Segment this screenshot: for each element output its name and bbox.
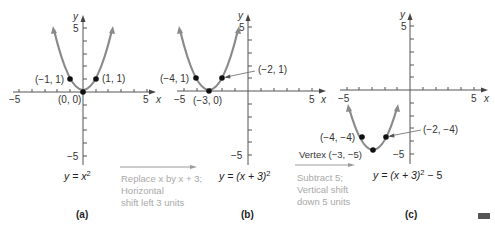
parabola-transformations-figure: y 5 −5 −5 5 x (−1, 1) (1, 1) (0, 0) y = … <box>0 0 495 229</box>
y-axis-label: y <box>399 9 406 20</box>
x-max-label: 5 <box>143 94 149 105</box>
curve-arrow-icon <box>346 104 352 112</box>
x-min-label: −5 <box>338 93 350 104</box>
point-label: (−1, 1) <box>35 74 64 85</box>
transform-note-vertical: Subtract 5; Vertical shift down 5 units <box>295 163 355 207</box>
leader-line <box>226 71 255 77</box>
equation: y = x2 <box>63 169 91 182</box>
transform-note-line: Horizontal <box>121 185 164 196</box>
point-neg2-1 <box>219 75 225 81</box>
x-max-label: 5 <box>471 93 477 104</box>
point-vertex <box>206 88 212 94</box>
arrow-right-icon <box>348 163 355 167</box>
panel-caption: (c) <box>405 209 417 220</box>
panel-caption: (b) <box>241 209 254 220</box>
transform-note-line: shift left 3 units <box>121 197 185 208</box>
x-axis-label: x <box>155 94 162 105</box>
y-axis-arrow-icon <box>81 15 86 22</box>
x-max-label: 5 <box>309 94 315 105</box>
point-label: (−2, 1) <box>258 64 287 75</box>
panel-caption: (a) <box>76 209 88 220</box>
transform-note-line: down 5 units <box>297 196 351 207</box>
x-axis-arrow-icon <box>481 88 488 93</box>
equation: y = (x + 3)2 − 5 <box>372 168 442 181</box>
point-neg2-neg4 <box>383 134 389 140</box>
x-axis-label: x <box>320 94 327 105</box>
y-max-label: 5 <box>401 21 407 32</box>
point-label: (−4, −4) <box>320 132 355 143</box>
transform-note-horizontal: Replace x by x + 3; Horizontal shift lef… <box>120 165 202 208</box>
point-label: (−3, 0) <box>193 95 222 106</box>
leader-arrow-icon <box>224 75 231 79</box>
x-min-label: −5 <box>174 94 186 105</box>
point-neg4-1 <box>193 75 199 81</box>
y-axis-arrow-icon <box>246 14 251 21</box>
y-min-label: −5 <box>231 150 243 161</box>
point-1-1 <box>93 76 99 82</box>
y-max-label: 5 <box>73 23 79 34</box>
point-vertex <box>370 147 376 153</box>
point-neg4-neg4 <box>359 134 365 140</box>
x-axis-arrow-icon <box>319 89 326 94</box>
curve-arrow-icon <box>394 104 400 112</box>
point-label: (0, 0) <box>58 94 81 105</box>
parabola-curve <box>349 108 397 150</box>
curve-arrow-icon <box>177 26 183 34</box>
transform-note-line: Replace x by x + 3; <box>121 173 202 184</box>
point-neg1-1 <box>67 76 73 82</box>
curve-arrow-icon <box>109 26 115 34</box>
y-min-label: −5 <box>67 151 79 162</box>
vertex-label: Vertex (−3, −5) <box>299 149 362 160</box>
point-label: (−4, 1) <box>160 73 189 84</box>
curve-arrow-icon <box>51 26 57 34</box>
leader-arrow-icon <box>388 134 395 138</box>
transform-note-line: Vertical shift <box>297 184 349 195</box>
transform-note-line: Subtract 5; <box>297 172 343 183</box>
x-axis-arrow-icon <box>149 90 156 95</box>
y-axis-label: y <box>72 11 79 22</box>
y-min-label: −5 <box>393 149 405 160</box>
point-label: (−2, −4) <box>423 124 458 135</box>
arrow-right-icon <box>190 165 197 169</box>
x-axis-label: x <box>483 93 490 104</box>
leader-line <box>390 130 421 136</box>
end-marker-square <box>478 213 490 219</box>
x-min-label: −5 <box>9 94 21 105</box>
equation: y = (x + 3)2 <box>218 169 270 182</box>
y-axis-arrow-icon <box>408 13 413 20</box>
point-label: (1, 1) <box>102 73 125 84</box>
y-axis-label: y <box>237 10 244 21</box>
